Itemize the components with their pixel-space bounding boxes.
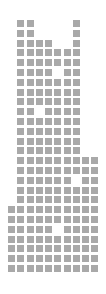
waffle-cell (36, 138, 43, 145)
waffle-cell (64, 98, 71, 105)
waffle-cell (36, 128, 43, 135)
waffle-cell (17, 147, 24, 154)
waffle-cell (54, 167, 61, 174)
waffle-cell (27, 216, 34, 223)
waffle-cell (91, 177, 98, 184)
waffle-cell (17, 157, 24, 164)
waffle-cell (73, 79, 80, 86)
waffle-cell (82, 187, 89, 194)
waffle-cell (64, 89, 71, 96)
waffle-cell (27, 108, 34, 115)
waffle-cell (36, 216, 43, 223)
waffle-cell (73, 98, 80, 105)
waffle-cell (17, 226, 24, 233)
waffle-cell (91, 216, 98, 223)
waffle-cell (64, 265, 71, 272)
waffle-cell (54, 206, 61, 213)
waffle-cell (64, 206, 71, 213)
waffle-cell (17, 236, 24, 243)
waffle-cell (45, 98, 52, 105)
waffle-cell (82, 236, 89, 243)
waffle-cell (73, 236, 80, 243)
waffle-cell (27, 30, 34, 37)
waffle-cell (17, 118, 24, 125)
waffle-cell (73, 30, 80, 37)
waffle-cell (64, 138, 71, 145)
waffle-cell (45, 128, 52, 135)
waffle-cell (45, 69, 52, 76)
waffle-cell (45, 167, 52, 174)
waffle-cell (73, 138, 80, 145)
waffle-cell (54, 245, 61, 252)
waffle-cell (91, 157, 98, 164)
waffle-cell (17, 216, 24, 223)
waffle-cell (17, 40, 24, 47)
waffle-cell (73, 89, 80, 96)
waffle-cell (54, 147, 61, 154)
waffle-cell (64, 187, 71, 194)
waffle-cell (64, 108, 71, 115)
waffle-cell (17, 177, 24, 184)
waffle-cell (73, 157, 80, 164)
waffle-cell (8, 216, 15, 223)
waffle-cell (17, 30, 24, 37)
waffle-cell (73, 108, 80, 115)
waffle-cell (45, 49, 52, 56)
waffle-cell (82, 167, 89, 174)
waffle-cell (54, 157, 61, 164)
waffle-cell (27, 157, 34, 164)
waffle-cell (17, 255, 24, 262)
waffle-cell (17, 69, 24, 76)
waffle-cell (27, 196, 34, 203)
waffle-cell (73, 128, 80, 135)
waffle-cell (45, 236, 52, 243)
waffle-cell (27, 226, 34, 233)
waffle-cell (45, 108, 52, 115)
waffle-cell (17, 89, 24, 96)
waffle-cell (36, 157, 43, 164)
waffle-cell (17, 206, 24, 213)
waffle-cell (45, 187, 52, 194)
waffle-cell (45, 89, 52, 96)
waffle-cell (27, 236, 34, 243)
waffle-cell (73, 226, 80, 233)
waffle-cell (54, 118, 61, 125)
waffle-cell (45, 40, 52, 47)
waffle-cell (54, 79, 61, 86)
waffle-cell (73, 196, 80, 203)
waffle-cell (54, 236, 61, 243)
waffle-cell (45, 147, 52, 154)
waffle-cell (36, 49, 43, 56)
waffle-cell (27, 59, 34, 66)
waffle-cell (36, 98, 43, 105)
waffle-cell (27, 20, 34, 27)
waffle-cell (45, 245, 52, 252)
waffle-cell (91, 187, 98, 194)
waffle-cell (36, 79, 43, 86)
waffle-cell (82, 196, 89, 203)
waffle-cell (45, 226, 52, 233)
waffle-cell (73, 147, 80, 154)
waffle-cell (8, 245, 15, 252)
waffle-cell (54, 255, 61, 262)
waffle-cell (45, 118, 52, 125)
waffle-cell (54, 265, 61, 272)
waffle-cell (91, 236, 98, 243)
waffle-cell (17, 59, 24, 66)
waffle-cell (36, 89, 43, 96)
waffle-cell (91, 265, 98, 272)
waffle-cell (27, 138, 34, 145)
waffle-cell (82, 245, 89, 252)
waffle-cell (17, 138, 24, 145)
waffle-cell (27, 147, 34, 154)
waffle-cell (17, 167, 24, 174)
waffle-cell (45, 138, 52, 145)
waffle-cell (36, 69, 43, 76)
waffle-cell (36, 255, 43, 262)
waffle-cell (45, 265, 52, 272)
waffle-cell (8, 206, 15, 213)
waffle-cell (36, 177, 43, 184)
waffle-cell (73, 167, 80, 174)
waffle-cell (36, 206, 43, 213)
waffle-cell (91, 255, 98, 262)
